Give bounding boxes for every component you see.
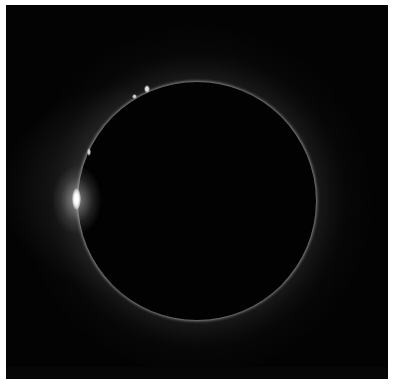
moon-disk: [78, 82, 316, 320]
diamond-ring-bead: [72, 188, 81, 210]
prominence-upper: [132, 94, 137, 99]
bottom-strip: [6, 367, 388, 379]
prominence-top: [144, 85, 150, 93]
prominence-left: [87, 148, 91, 156]
eclipse-photo: [6, 5, 388, 379]
